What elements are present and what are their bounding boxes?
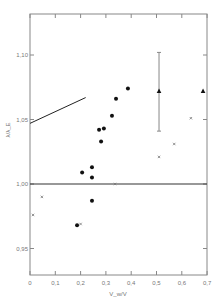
data-point-cross <box>173 143 175 145</box>
x-tick-label: 0,6 <box>178 280 187 286</box>
data-point-circle <box>110 114 114 118</box>
y-tick-label: 1,05 <box>16 117 28 123</box>
data-point-cross <box>190 117 192 119</box>
x-tick-label: 0,2 <box>76 280 85 286</box>
data-point-circle <box>97 128 101 132</box>
data-point-cross <box>32 214 34 216</box>
x-tick-label: 0 <box>28 280 32 286</box>
data-point-cross <box>158 156 160 158</box>
y-tick-label: 1,00 <box>16 181 28 187</box>
data-point-circle <box>99 139 103 143</box>
x-axis-label: V_w/V <box>109 291 126 297</box>
data-point-circle <box>80 170 84 174</box>
data-point-circle <box>114 97 118 101</box>
data-point-triangle <box>157 89 162 93</box>
y-tick-label: 1,10 <box>16 52 28 58</box>
trend-line <box>30 98 86 124</box>
data-point-triangle <box>201 89 206 93</box>
data-point-circle <box>90 176 94 180</box>
x-tick-label: 0,7 <box>203 280 212 286</box>
data-point-circle <box>75 223 79 227</box>
data-point-circle <box>102 127 106 131</box>
scatter-chart: 00,10,20,30,40,50,60,70,951,001,051,10V_… <box>0 0 222 299</box>
x-tick-label: 0,4 <box>127 280 136 286</box>
data-point-cross <box>41 196 43 198</box>
data-point-cross <box>79 223 81 225</box>
x-tick-label: 0,1 <box>51 280 60 286</box>
x-tick-label: 0,5 <box>152 280 161 286</box>
plot-frame <box>30 14 207 275</box>
y-axis-label: λ/λ_E <box>5 122 11 137</box>
data-point-circle <box>126 87 130 91</box>
data-point-circle <box>90 199 94 203</box>
y-tick-label: 0,95 <box>16 246 28 252</box>
x-tick-label: 0,3 <box>102 280 111 286</box>
data-point-circle <box>90 165 94 169</box>
